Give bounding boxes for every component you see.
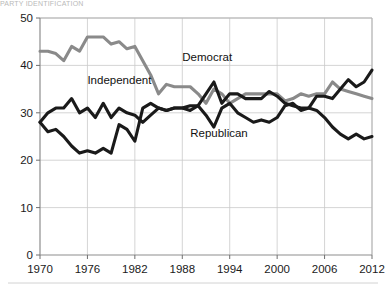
clipped-header-text: PARTY IDENTIFICATION	[0, 0, 150, 7]
x-tick-label-1976: 1976	[75, 263, 101, 275]
y-tick-label-40: 40	[20, 59, 33, 71]
y-tick-label-20: 20	[20, 154, 33, 166]
chart-figure: PARTY IDENTIFICATION 01020304050 1970197…	[0, 0, 386, 290]
y-tick-label-10: 10	[20, 202, 33, 214]
y-tick-label-50: 50	[20, 12, 33, 24]
x-tick-label-1988: 1988	[169, 263, 195, 275]
y-axis-tick-labels: 01020304050	[20, 12, 33, 261]
y-tick-label-0: 0	[27, 249, 33, 261]
x-tick-label-1982: 1982	[122, 263, 148, 275]
x-tick-label-2012: 2012	[359, 263, 385, 275]
label-democrat: Democrat	[182, 51, 233, 63]
party-identification-line-chart: 01020304050 1970197619821988199420002006…	[0, 0, 386, 290]
y-tick-label-30: 30	[20, 107, 33, 119]
x-tick-label-2006: 2006	[312, 263, 338, 275]
x-tick-label-1970: 1970	[27, 263, 53, 275]
label-independent: Independent	[87, 74, 152, 86]
x-tick-label-2000: 2000	[264, 263, 290, 275]
x-tick-label-1994: 1994	[217, 263, 243, 275]
label-republican: Republican	[190, 127, 248, 139]
x-axis-tick-labels: 19701976198219881994200020062012	[27, 263, 385, 275]
